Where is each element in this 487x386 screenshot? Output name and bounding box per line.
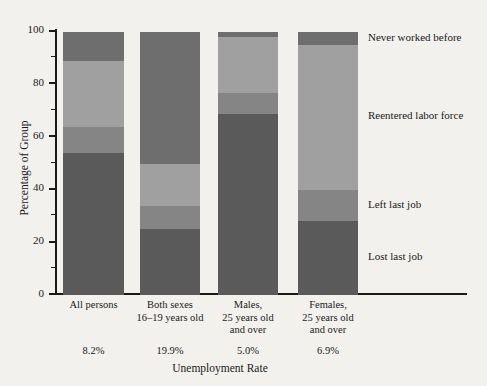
bar-segment-lost-last-job[interactable] <box>140 229 200 295</box>
y-tick-label-60: 60 <box>10 130 44 141</box>
x-axis-title: Unemployment Rate <box>120 362 320 374</box>
unemployment-rate-4: 6.9% <box>280 345 376 356</box>
bar-segment-lost-last-job[interactable] <box>63 153 124 295</box>
bar-3[interactable] <box>218 32 278 295</box>
bar-segment-never-worked-before[interactable] <box>140 32 200 164</box>
bar-segment-reentered-labor-force[interactable] <box>140 164 200 206</box>
y-tick-20 <box>49 241 57 243</box>
category-label-line: and over <box>280 324 376 337</box>
y-tick-60 <box>49 135 57 137</box>
y-tick-minor-90 <box>51 56 56 57</box>
y-tick-80 <box>49 82 57 84</box>
category-label-4: Females,25 years oldand over <box>280 299 376 337</box>
bar-segment-lost-last-job[interactable] <box>218 114 278 295</box>
bar-segment-never-worked-before[interactable] <box>63 32 124 61</box>
y-tick-minor-30 <box>51 214 56 215</box>
y-tick-label-80: 80 <box>10 77 44 88</box>
bar-segment-lost-last-job[interactable] <box>298 221 358 295</box>
y-tick-minor-70 <box>51 109 56 110</box>
bar-segment-left-last-job[interactable] <box>140 206 200 230</box>
y-tick-label-0: 0 <box>10 288 44 299</box>
category-label-line: 25 years old <box>280 312 376 325</box>
stacked-bar-chart: Percentage of Group 100 80 60 40 20 0 Un… <box>0 0 487 386</box>
y-axis-title: Percentage of Group <box>18 78 30 258</box>
bar-segment-reentered-labor-force[interactable] <box>218 37 278 92</box>
y-tick-label-40: 40 <box>10 182 44 193</box>
bar-segment-never-worked-before[interactable] <box>298 32 358 45</box>
bar-segment-left-last-job[interactable] <box>218 93 278 114</box>
bar-1[interactable] <box>63 32 124 295</box>
y-tick-minor-50 <box>51 162 56 163</box>
category-label-line: Females, <box>280 299 376 312</box>
legend-label-left-last-job[interactable]: Left last job <box>368 198 421 210</box>
bar-4[interactable] <box>298 32 358 295</box>
bar-segment-left-last-job[interactable] <box>298 190 358 222</box>
bar-segment-reentered-labor-force[interactable] <box>298 45 358 190</box>
bar-segment-left-last-job[interactable] <box>63 127 124 153</box>
legend-label-lost-last-job[interactable]: Lost last job <box>368 250 422 262</box>
bar-2[interactable] <box>140 32 200 295</box>
y-tick-label-20: 20 <box>10 235 44 246</box>
y-tick-100 <box>49 30 57 32</box>
chart-page: Percentage of Group 100 80 60 40 20 0 Un… <box>0 0 487 386</box>
y-tick-40 <box>49 188 57 190</box>
y-tick-minor-10 <box>51 267 56 268</box>
legend-label-never-worked-before[interactable]: Never worked before <box>368 31 461 43</box>
y-tick-label-100: 100 <box>10 24 44 35</box>
bar-segment-reentered-labor-force[interactable] <box>63 61 124 127</box>
legend-label-reentered-labor-force[interactable]: Reentered labor force <box>368 109 463 121</box>
